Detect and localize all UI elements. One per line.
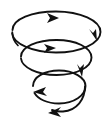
vortex-diagram-canvas	[0, 0, 108, 121]
spiral-vortex-figure: A black line-art conical spiral drawn as…	[0, 0, 108, 121]
